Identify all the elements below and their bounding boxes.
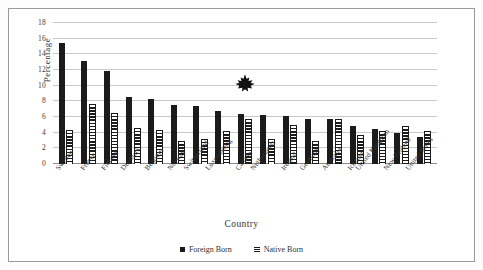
- legend-swatch: [180, 247, 185, 252]
- bar-group: [279, 23, 301, 164]
- y-tick-2: 2: [42, 145, 46, 153]
- bar-foreign-born: [104, 71, 110, 164]
- y-tick-6: 6: [42, 113, 46, 121]
- y-tick-14: 14: [38, 51, 46, 59]
- legend-label: Native Born: [264, 245, 303, 254]
- x-tick: Canada: [234, 166, 256, 218]
- x-tick: Finland: [100, 166, 122, 218]
- chart-legend: Foreign BornNative Born: [9, 245, 474, 254]
- x-tick: France: [77, 166, 99, 218]
- bar-group: [301, 23, 323, 164]
- x-tick: Denmark: [122, 166, 144, 218]
- x-tick: Australia: [323, 166, 345, 218]
- y-tick-12: 12: [38, 66, 46, 74]
- x-tick: Iceland: [346, 166, 368, 218]
- x-tick: New Zealand: [390, 166, 412, 218]
- x-axis-title: Country: [9, 219, 474, 229]
- legend-item[interactable]: Native Born: [254, 245, 303, 254]
- y-tick-0: 0: [42, 160, 46, 168]
- bar-group: [234, 23, 256, 164]
- bar-group: [55, 23, 77, 164]
- y-axis-tick-labels: 024681012141618: [9, 23, 51, 164]
- x-tick: Luxembourg: [212, 166, 234, 218]
- bar-group: [323, 23, 345, 164]
- bar-foreign-born: [81, 61, 87, 164]
- bar-group: [167, 23, 189, 164]
- legend-swatch: [254, 247, 260, 253]
- y-tick-16: 16: [38, 35, 46, 43]
- bar-group: [100, 23, 122, 164]
- bar-group: [144, 23, 166, 164]
- legend-label: Foreign Born: [189, 245, 232, 254]
- y-tick-8: 8: [42, 98, 46, 106]
- legend-item[interactable]: Foreign Born: [180, 245, 232, 254]
- x-axis-tick-labels: SwedenFranceFinlandDenmarkBelgiumNorwayS…: [53, 166, 437, 218]
- y-tick-18: 18: [38, 19, 46, 27]
- y-tick-4: 4: [42, 129, 46, 137]
- x-tick: Netherlands: [256, 166, 278, 218]
- x-tick: Ireland: [279, 166, 301, 218]
- x-tick: Belgium: [144, 166, 166, 218]
- chart-figure: Percentage 024681012141618 SwedenFranceF…: [0, 0, 483, 270]
- bar-group: [77, 23, 99, 164]
- x-tick: Switzerland: [189, 166, 211, 218]
- bar-foreign-born: [59, 43, 65, 164]
- chart-frame: Percentage 024681012141618 SwedenFranceF…: [8, 8, 475, 262]
- x-tick: Sweden: [55, 166, 77, 218]
- x-tick: United States: [413, 166, 435, 218]
- x-tick: Germany: [301, 166, 323, 218]
- bar-group: [122, 23, 144, 164]
- bar-group: [346, 23, 368, 164]
- x-tick: Norway: [167, 166, 189, 218]
- x-tick: United Kingdom: [368, 166, 390, 218]
- y-tick-10: 10: [38, 82, 46, 90]
